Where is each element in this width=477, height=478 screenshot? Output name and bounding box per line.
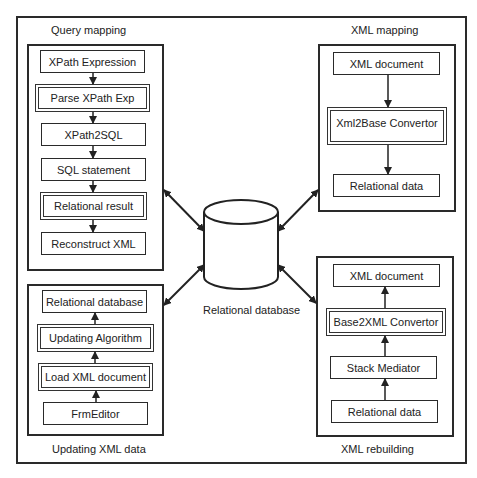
connectors-layer bbox=[0, 0, 477, 478]
updating-flow-arrows bbox=[95, 313, 96, 402]
database-cylinder-icon bbox=[204, 200, 278, 289]
